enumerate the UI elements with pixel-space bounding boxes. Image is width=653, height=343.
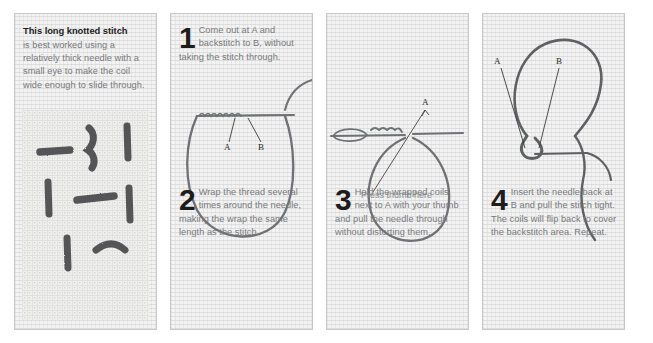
step-3-body: Hold the wrapped coils next to A with yo… bbox=[335, 186, 462, 240]
label-a-step1: A bbox=[224, 142, 231, 152]
intro-body: is best worked using a relatively thick … bbox=[23, 39, 150, 93]
instruction-sheet: This long knotted stitch is best worked … bbox=[0, 0, 653, 343]
label-b-step4: B bbox=[556, 56, 562, 66]
step-3-diagram: A Press thumb here bbox=[327, 14, 468, 329]
step-number-2: 2 bbox=[179, 187, 195, 212]
step-1-text-block: 1 Come out at A and backstitch to B, wit… bbox=[179, 24, 306, 64]
stitch-sample-photo bbox=[22, 110, 149, 320]
panel-intro: This long knotted stitch is best worked … bbox=[14, 13, 157, 330]
step-3-text-block: 3 Hold the wrapped coils next to A with … bbox=[335, 186, 462, 240]
label-a-step3: A bbox=[422, 97, 429, 107]
panel-step-1-2: 1 Come out at A and backstitch to B, wit… bbox=[170, 13, 313, 330]
step-number-4: 4 bbox=[491, 187, 507, 212]
panel-step-4: A B 4 Insert the needle back at B and pu… bbox=[482, 13, 625, 330]
page-title: This long knotted stitch bbox=[23, 24, 150, 38]
step-4-diagram: A B bbox=[483, 14, 624, 329]
intro-text-block: This long knotted stitch is best worked … bbox=[23, 24, 150, 92]
step-4-text-block: 4 Insert the needle back at B and pull t… bbox=[491, 186, 618, 240]
step-2-body: Wrap the thread several times around the… bbox=[179, 186, 306, 240]
label-a-step4: A bbox=[494, 56, 501, 66]
step-number-3: 3 bbox=[335, 187, 351, 212]
step-4-body: Insert the needle back at B and pull the… bbox=[491, 186, 618, 240]
step-2-text-block: 2 Wrap the thread several times around t… bbox=[179, 186, 306, 240]
panel-step-3: A Press thumb here 3 Hold the wrapped co… bbox=[326, 13, 469, 330]
step-1-body: Come out at A and backstitch to B, witho… bbox=[179, 24, 306, 64]
step-number-1: 1 bbox=[179, 25, 195, 50]
label-b-step1: B bbox=[258, 142, 264, 152]
